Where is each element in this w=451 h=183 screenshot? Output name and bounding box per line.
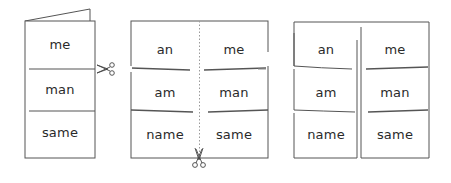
card-edge	[366, 67, 428, 69]
word-label: same	[25, 125, 95, 141]
word-label: same	[200, 127, 268, 143]
word-label: man	[25, 82, 95, 98]
cut-edge	[204, 68, 266, 70]
word-label: same	[361, 127, 429, 143]
word-label: man	[361, 85, 429, 101]
word-label: am	[294, 85, 358, 101]
card-edge	[368, 110, 428, 112]
word-label: an	[294, 42, 358, 58]
word-label: man	[200, 85, 268, 101]
word-label: name	[294, 127, 358, 143]
word-label: an	[131, 42, 199, 58]
word-label: me	[25, 37, 95, 53]
cut-edge	[131, 68, 190, 70]
word-label: name	[131, 127, 199, 143]
cut-edge	[131, 110, 193, 112]
word-label: me	[361, 42, 429, 58]
scissors-icon-horizontal	[97, 63, 114, 76]
word-label: am	[131, 85, 199, 101]
word-label: me	[200, 42, 268, 58]
cut-edge	[208, 110, 268, 112]
fold-flap	[25, 9, 90, 21]
